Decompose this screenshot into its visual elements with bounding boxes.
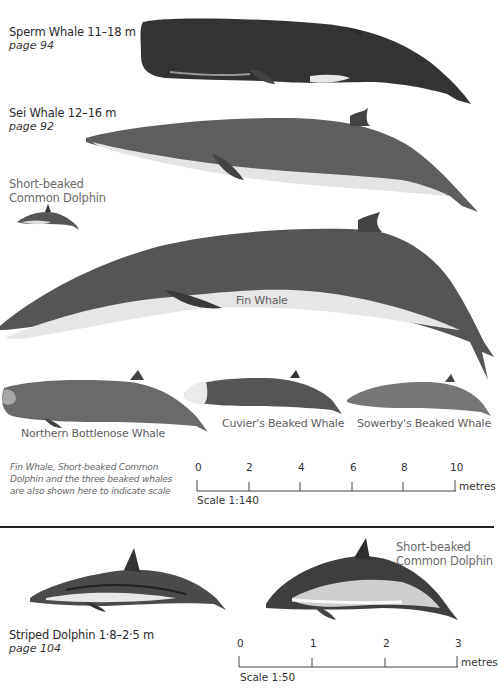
scale-top-tick-0: 0: [195, 461, 202, 473]
scale-bottom-ruler: [238, 654, 460, 668]
scale-top-unit: metres: [459, 480, 496, 492]
sperm-whale-label: Sperm Whale 11–18 m: [9, 25, 136, 39]
section-divider: [0, 526, 494, 528]
scale-bottom-unit: metres: [461, 656, 498, 668]
scale-note-line-3: are also shown here to indicate scale: [10, 486, 170, 498]
cuviers-beaked-whale-label: Cuvier's Beaked Whale: [222, 417, 344, 430]
scale-top-tick-2: 2: [246, 461, 253, 473]
scale-note-line-2: Dolphin and the three beaked whales: [10, 474, 172, 486]
scale-top-ruler: [196, 478, 458, 492]
sowerbys-beaked-whale-label: Sowerby's Beaked Whale: [357, 417, 491, 430]
sei-whale-illustration: [82, 108, 482, 213]
common-dolphin-large-label-2: Common Dolphin: [396, 554, 493, 568]
sperm-whale-illustration: [135, 12, 475, 107]
sowerbys-beaked-whale-illustration: [345, 372, 493, 422]
common-dolphin-large-label-1: Short-beaked: [396, 540, 471, 554]
sei-whale-page-link[interactable]: page 92: [9, 120, 54, 133]
striped-dolphin-illustration: [26, 546, 231, 616]
scale-top-tick-4: 4: [298, 461, 305, 473]
scale-bottom-tick-3: 3: [455, 637, 462, 649]
scale-top-tick-8: 8: [401, 461, 408, 473]
scale-top-tick-10: 10: [450, 461, 463, 473]
sperm-whale-page-link[interactable]: page 94: [9, 39, 54, 52]
fin-whale-label: Fin Whale: [236, 294, 288, 307]
scale-note-line-1: Fin Whale, Short-beaked Common: [10, 462, 158, 474]
scale-top-label: Scale 1:140: [197, 494, 259, 506]
cuviers-beaked-whale-illustration: [182, 370, 344, 422]
scale-bottom-tick-0: 0: [237, 637, 244, 649]
northern-bottlenose-whale-label: Northern Bottlenose Whale: [21, 427, 165, 440]
scale-bottom-label: Scale 1:50: [240, 671, 295, 683]
scale-top-tick-6: 6: [350, 461, 357, 473]
common-dolphin-small-label-2: Common Dolphin: [9, 191, 106, 205]
scale-bottom-tick-2: 2: [383, 637, 390, 649]
common-dolphin-small-label-1: Short-beaked: [9, 177, 84, 191]
striped-dolphin-page-link[interactable]: page 104: [9, 642, 61, 655]
scale-bottom-tick-1: 1: [310, 637, 317, 649]
striped-dolphin-label: Striped Dolphin 1·8–2·5 m: [9, 628, 154, 642]
